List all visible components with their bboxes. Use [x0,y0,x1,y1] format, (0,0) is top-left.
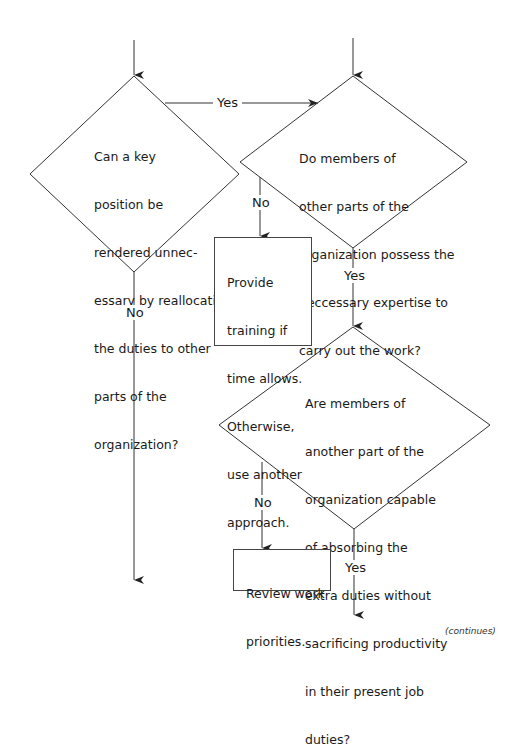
text-line: Review work [246,586,330,602]
text-line: use another [227,467,311,483]
text-line: another part of the [305,444,447,460]
text-line: the duties to other [94,341,232,357]
text-line: Can a key [94,149,232,165]
decision-2-text: Do members of other parts of the organiz… [299,119,455,375]
text-line: carry out the work? [299,343,455,359]
text-line: Otherwise, [227,419,311,435]
text-line: priorities. [246,634,330,650]
text-line: rendered unnec- [94,245,232,261]
continues-note: (continues) [445,626,496,636]
action-2-text: Review work priorities. [234,550,330,682]
text-line: Do members of [299,151,455,167]
decision-1-text: Can a key position be rendered unnec- es… [94,117,232,469]
text-line: duties? [305,732,447,748]
label-d1-yes: Yes [213,95,242,110]
action-1-text: Provide training if time allows. Otherwi… [215,238,311,563]
text-line: other parts of the [299,199,455,215]
text-line: approach. [227,515,311,531]
text-line: organization capable [305,492,447,508]
label-d2-no: No [251,195,271,210]
text-line: Provide [227,275,311,291]
text-line: Are members of [305,396,447,412]
text-line: in their present job [305,684,447,700]
text-line: neccessary expertise to [299,295,455,311]
label-d3-no: No [253,495,273,510]
text-line: training if [227,323,311,339]
text-line: essary by reallocating [94,293,232,309]
text-line: parts of the [94,389,232,405]
label-d2-yes: Yes [343,268,366,283]
label-d1-no: No [125,305,145,320]
text-line: position be [94,197,232,213]
text-line: organization possess the [299,247,455,263]
text-line: time allows. [227,371,311,387]
action-box-review-priorities: Review work priorities. [233,549,331,591]
action-box-provide-training: Provide training if time allows. Otherwi… [214,237,312,346]
label-d3-yes: Yes [344,560,367,575]
text-line: organization? [94,437,232,453]
